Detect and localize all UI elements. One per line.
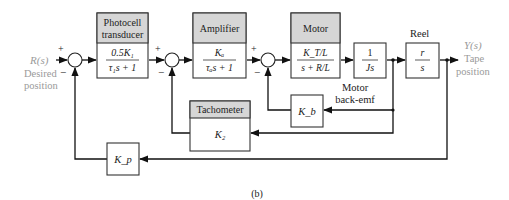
kp-to-sum1-line	[75, 68, 107, 159]
svg-text:position: position	[456, 66, 491, 77]
svg-text:−: −	[60, 66, 66, 78]
back-emf-block: K_b Motor back-emf	[291, 82, 375, 127]
svg-text:transducer: transducer	[102, 29, 144, 40]
svg-text:Photocell: Photocell	[104, 17, 142, 28]
svg-text:K_b: K_b	[297, 106, 316, 117]
svg-text:R(s): R(s)	[29, 54, 49, 67]
svg-text:back-emf: back-emf	[335, 94, 375, 105]
svg-text:1: 1	[368, 47, 373, 58]
svg-text:Reel: Reel	[410, 28, 429, 39]
svg-text:Tape: Tape	[464, 53, 485, 64]
svg-text:K_p: K_p	[113, 154, 132, 165]
block-diagram: + − + − + − R(s) Desired position Y(s) T…	[0, 0, 509, 200]
svg-text:K_T/L: K_T/L	[302, 48, 327, 58]
svg-text:Motor: Motor	[303, 23, 329, 34]
svg-text:Kₐ: Kₐ	[214, 47, 225, 58]
svg-text:Desired: Desired	[24, 68, 57, 79]
tach-to-sum2-line	[172, 68, 190, 133]
input-label: R(s) Desired position	[24, 54, 59, 91]
svg-text:Js: Js	[366, 62, 374, 73]
svg-text:τ₁s + 1: τ₁s + 1	[109, 62, 137, 73]
position-feedback-block: K_p	[107, 143, 139, 175]
svg-text:Motor: Motor	[342, 82, 369, 93]
inertia-block: 1 Js	[354, 43, 386, 78]
svg-text:Amplifier: Amplifier	[200, 23, 240, 34]
tachometer-block: Tachometer K₂	[190, 101, 250, 151]
svg-text:−: −	[254, 66, 260, 78]
svg-text:s: s	[421, 62, 425, 73]
branch-point-position	[445, 58, 449, 62]
photocell-transducer-block: Photocell transducer 0.5K₁ τ₁s + 1	[97, 13, 148, 78]
svg-text:r: r	[421, 47, 425, 58]
kb-to-sum3-line	[268, 68, 291, 110]
svg-text:+: +	[155, 43, 161, 54]
svg-text:−: −	[158, 66, 164, 78]
figure-caption: (b)	[251, 188, 263, 200]
svg-text:τₐs + 1: τₐs + 1	[206, 62, 233, 73]
reel-block: Reel r s	[406, 28, 439, 78]
svg-text:s + R/L: s + R/L	[301, 63, 330, 73]
svg-text:0.5K₁: 0.5K₁	[111, 47, 134, 58]
svg-text:+: +	[251, 43, 257, 54]
branch-point-backemf	[391, 108, 394, 111]
motor-block: Motor K_T/L s + R/L	[291, 13, 340, 78]
svg-text:position: position	[24, 80, 59, 91]
svg-text:K₂: K₂	[214, 129, 226, 140]
amplifier-block: Amplifier Kₐ τₐs + 1	[193, 13, 246, 78]
svg-text:Tachometer: Tachometer	[196, 104, 244, 115]
branch-point-velocity	[391, 58, 395, 62]
svg-text:Y(s): Y(s)	[464, 39, 482, 52]
output-label: Y(s) Tape position	[456, 39, 491, 77]
svg-text:+: +	[58, 43, 64, 54]
